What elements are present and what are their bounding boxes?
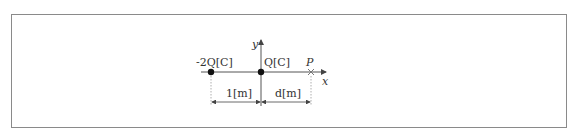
- y-axis-label: y: [251, 38, 259, 51]
- x-axis-label: x: [322, 75, 329, 88]
- charge-q-dot: [258, 69, 264, 75]
- charge-diagram: x y -2Q[C] Q[C] P 1[m] d[m]: [0, 0, 577, 136]
- charge-neg2q-label: -2Q[C]: [196, 56, 233, 69]
- dimension-1m-label: 1[m]: [226, 87, 252, 100]
- charge-q-label: Q[C]: [264, 56, 290, 69]
- charge-neg2q-dot: [208, 69, 214, 75]
- dimension-dm-label: d[m]: [275, 87, 301, 100]
- point-p-label: P: [305, 56, 314, 69]
